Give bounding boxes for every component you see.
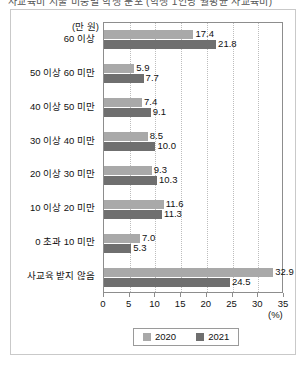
bar-value-label: 17.4 [195,29,214,39]
legend-swatch-icon [196,333,204,341]
bar-value-label: 5.3 [133,243,146,253]
x-tick [154,293,155,297]
gridline [233,23,234,292]
gridline [207,23,208,292]
bar-2021-6 [104,244,131,253]
chart-container: (만 원) 60 이상50 이상 60 미만40 이상 50 미만30 이상 4… [0,0,306,368]
bar-2021-7 [104,278,230,287]
bar-value-label: 9.1 [153,107,166,117]
x-axis-unit-label: (%) [268,309,283,320]
bar-2020-4 [104,166,152,175]
legend-swatch-icon [143,333,151,341]
bar-2020-0 [104,30,193,39]
legend-label: 2020 [155,332,176,342]
bar-2020-5 [104,200,164,209]
x-tick-label: 0 [100,298,105,309]
y-axis-category-labels: 60 이상50 이상 60 미만40 이상 50 미만30 이상 40 미만20… [0,22,99,293]
x-tick [257,293,258,297]
y-axis-label-1: 50 이상 60 미만 [30,67,95,78]
bar-2021-1 [104,74,144,83]
legend-item-2020: 2020 [143,332,176,342]
bar-value-label: 7.7 [146,73,159,83]
bar-value-label: 11.3 [164,209,182,219]
bar-2021-5 [104,210,162,219]
x-tick-label: 35 [278,298,289,309]
x-tick-label: 30 [252,298,263,309]
bar-value-label: 21.8 [218,39,237,49]
x-tick-label: 15 [175,298,186,309]
gridline [155,23,156,292]
x-tick [180,293,181,297]
bar-2021-4 [104,176,157,185]
y-axis-label-7: 사교육 받지 않음 [27,270,95,281]
chart-legend: 20202021 [133,328,239,346]
y-axis-label-4: 20 이상 30 미만 [30,168,95,179]
bar-value-label: 24.5 [232,277,251,287]
x-tick-label: 25 [226,298,237,309]
y-axis-label-3: 30 이상 40 미만 [30,135,95,146]
bar-2021-0 [104,40,216,49]
bar-value-label: 10.3 [159,175,178,185]
legend-label: 2021 [208,332,229,342]
bar-2021-2 [104,108,151,117]
bar-value-label: 32.9 [275,267,294,277]
bar-value-label: 10.0 [157,141,176,151]
gridline [258,23,259,292]
x-tick [232,293,233,297]
gridline [181,23,182,292]
legend-item-2021: 2021 [196,332,229,342]
y-axis-label-2: 40 이상 50 미만 [30,101,95,112]
y-axis-label-6: 0 초과 10 미만 [35,236,95,247]
bar-2020-2 [104,98,142,107]
bar-2021-3 [104,142,155,151]
plot-area: 17.421.85.97.77.49.18.510.09.310.311.611… [103,22,283,293]
x-tick-label: 20 [201,298,212,309]
bar-2020-1 [104,64,134,73]
x-tick [283,293,284,297]
x-tick-label: 5 [126,298,131,309]
bar-2020-3 [104,132,148,141]
x-tick-label: 10 [149,298,160,309]
x-tick [206,293,207,297]
x-tick [129,293,130,297]
y-axis-label-0: 60 이상 [64,33,95,44]
x-tick [103,293,104,297]
y-axis-label-5: 10 이상 20 미만 [30,202,95,213]
